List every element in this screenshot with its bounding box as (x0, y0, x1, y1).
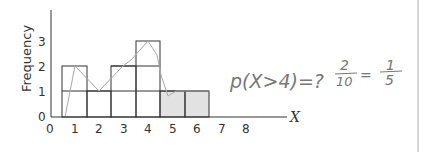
y-tick-0: 0 (38, 110, 46, 124)
svg-text:0: 0 (46, 122, 54, 136)
shaded-bar-5 (160, 91, 185, 117)
x-axis-label: X (289, 109, 301, 125)
histogram-chart: 0 1 2 3 Frequency 0 1 2 3 4 5 6 7 8 X p(… (0, 0, 424, 152)
y-tick-2: 2 (38, 60, 46, 74)
svg-text:3: 3 (120, 122, 128, 136)
svg-text:1: 1 (71, 122, 79, 136)
fraction-2-denominator: 5 (385, 72, 394, 88)
annotation-prefix: p(X>4)=? (229, 70, 324, 92)
svg-text:5: 5 (169, 122, 177, 136)
svg-text:8: 8 (242, 122, 250, 136)
x-ticks: 0 1 2 3 4 5 6 7 8 (46, 122, 250, 136)
probability-annotation: p(X>4)=? 2 10 = 1 5 (229, 57, 402, 92)
shaded-bar-6 (185, 91, 209, 117)
annotation-equals: = (360, 67, 372, 83)
y-axis-label: Frequency (19, 25, 34, 92)
svg-text:2: 2 (95, 122, 103, 136)
fraction-2-numerator: 1 (386, 57, 395, 73)
y-tick-1: 1 (38, 85, 46, 99)
fraction-1-denominator: 10 (336, 74, 353, 89)
fraction-1-numerator: 2 (340, 57, 349, 73)
svg-text:4: 4 (144, 122, 152, 136)
svg-text:6: 6 (193, 122, 201, 136)
y-tick-3: 3 (38, 35, 46, 49)
svg-text:7: 7 (218, 122, 226, 136)
